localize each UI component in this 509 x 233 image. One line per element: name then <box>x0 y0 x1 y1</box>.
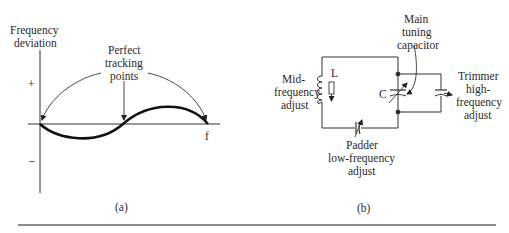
annotation-line1: Perfect <box>108 44 141 57</box>
main-cap-note-line2: tuning <box>402 26 431 39</box>
inductor-note-line2: frequency <box>274 86 320 99</box>
y-axis-label-line2: deviation <box>14 37 57 50</box>
inductor-slug <box>329 82 334 94</box>
main-cap-pointer <box>407 45 416 94</box>
inductor-note-line3: adjust <box>281 99 308 112</box>
padder-note-line3: adjust <box>348 165 375 178</box>
main-cap-note-line1: Main <box>404 13 428 26</box>
capacitor-label: C <box>379 88 387 101</box>
x-axis-label: f <box>205 130 209 143</box>
y-axis-label-line1: Frequency <box>10 24 59 37</box>
trimmer-note-line2: high- <box>466 83 490 96</box>
padder-note-line2: low-frequency <box>328 152 395 165</box>
padder-note-line1: Padder <box>346 139 378 152</box>
plus-tick: + <box>28 78 35 91</box>
minus-tick: – <box>29 154 35 167</box>
caption-a: (a) <box>115 201 128 214</box>
annotation-line2: tracking <box>105 57 143 70</box>
trimmer-wire <box>398 74 441 112</box>
junction-dot-top <box>396 72 400 76</box>
trimmer-note-line3: frequency <box>456 96 502 109</box>
main-cap-note-line3: capacitor <box>397 39 439 52</box>
caption-b: (b) <box>357 202 370 215</box>
arrow-left-tracking-point <box>42 73 101 120</box>
junction-dot-bottom <box>396 110 400 114</box>
trimmer-note-line4: adjust <box>464 109 491 122</box>
figure-graphics <box>0 0 509 233</box>
annotation-line3: points <box>110 70 138 83</box>
inductor-note-line1: Mid- <box>282 73 305 86</box>
trimmer-plate-2 <box>435 95 447 97</box>
trimmer-note-line1: Trimmer <box>458 70 498 83</box>
inductor-label: L <box>331 67 338 80</box>
